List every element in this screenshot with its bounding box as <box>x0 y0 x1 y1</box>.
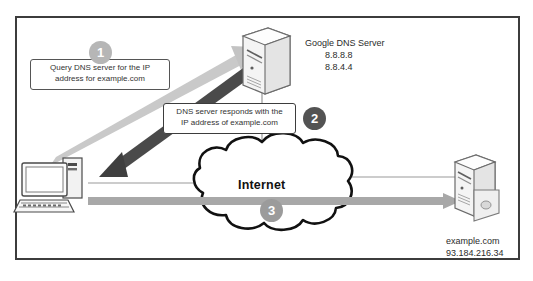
step-badge-1: 1 <box>89 41 112 64</box>
internet-cloud-label: Internet <box>238 178 285 192</box>
dns-server-ip-secondary: 8.8.4.4 <box>305 61 385 73</box>
dns-server-name: Google DNS Server <box>305 37 385 49</box>
web-server-ip: 93.184.216.34 <box>446 247 504 259</box>
callout-response-line2: IP address of example.com <box>168 118 291 129</box>
step-badge-3: 3 <box>260 199 283 222</box>
web-server-hostname: example.com <box>446 235 504 247</box>
dns-server-label: Google DNS Server 8.8.8.8 8.8.4.4 <box>305 37 385 73</box>
callout-query-line1: Query DNS server for the IP <box>35 63 165 74</box>
callout-response-line1: DNS server responds with the <box>168 107 291 118</box>
diagram-page: Query DNS server for the IP address for … <box>0 0 533 281</box>
dns-server-ip-primary: 8.8.8.8 <box>305 49 385 61</box>
web-server-label: example.com 93.184.216.34 <box>446 235 504 259</box>
callout-response: DNS server responds with the IP address … <box>163 103 296 134</box>
callout-query-line2: address for example.com <box>35 74 165 85</box>
step-badge-2: 2 <box>303 107 326 130</box>
